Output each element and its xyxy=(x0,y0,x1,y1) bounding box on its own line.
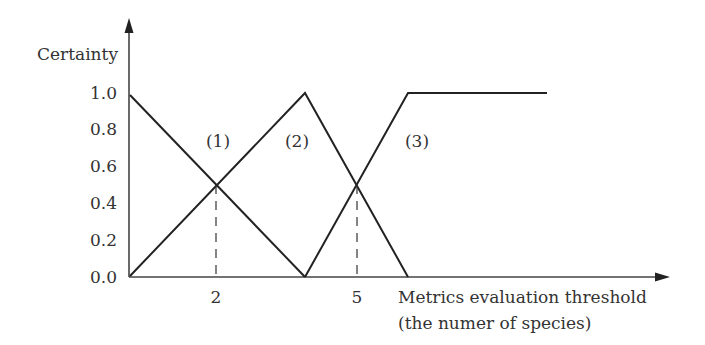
y-tick-0.0: 0.0 xyxy=(90,267,117,287)
y-tick-0.8: 0.8 xyxy=(90,119,117,139)
y-tick-0.4: 0.4 xyxy=(90,193,117,213)
y-tick-0.6: 0.6 xyxy=(90,156,117,176)
x-axis-arrow-icon xyxy=(655,273,670,282)
curve-3 xyxy=(305,93,547,277)
curve-3-label: (3) xyxy=(405,131,429,151)
x-axis-title-line2: (the numer of species) xyxy=(398,313,591,333)
membership-function-chart: Certainty 1.0 0.8 0.6 0.4 0.2 0.0 2 5 (1… xyxy=(0,0,705,345)
curve-2 xyxy=(130,93,408,277)
curve-1-label: (1) xyxy=(206,131,230,151)
x-tick-2: 2 xyxy=(211,287,222,307)
y-axis-title: Certainty xyxy=(37,44,118,64)
chart-canvas: Certainty 1.0 0.8 0.6 0.4 0.2 0.0 2 5 (1… xyxy=(0,0,705,345)
x-tick-5: 5 xyxy=(352,287,363,307)
y-tick-0.2: 0.2 xyxy=(90,230,117,250)
y-axis-arrow-icon xyxy=(125,18,134,33)
y-tick-1.0: 1.0 xyxy=(90,83,117,103)
curve-2-label: (2) xyxy=(285,131,309,151)
x-axis-title-line1: Metrics evaluation threshold xyxy=(398,287,647,307)
